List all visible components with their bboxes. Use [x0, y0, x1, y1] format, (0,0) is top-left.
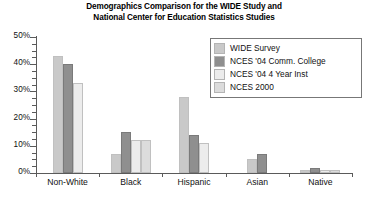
bar-hispanic-series-0: [179, 97, 189, 173]
x-axis-tick: [352, 173, 353, 177]
bar-native-series-3: [330, 170, 340, 173]
bar-native-series-1: [310, 168, 320, 173]
chart-title-line-1: Demographics Comparison for the WIDE Stu…: [0, 2, 368, 13]
bar-black-series-0: [111, 154, 121, 173]
chart-title-line-2: National Center for Education Statistics…: [0, 13, 368, 24]
x-axis-label-non-white: Non-White: [36, 177, 99, 187]
y-axis-tick-label: 40%: [0, 59, 30, 67]
x-axis-line: [36, 173, 353, 174]
legend-label-nces-2000: NCES 2000: [230, 83, 274, 92]
legend-label-nces-04-4-year-inst: NCES '04 4 Year Inst: [230, 70, 308, 79]
y-axis-tick-label: 0%: [0, 168, 30, 176]
legend-item: NCES '04 4 Year Inst: [214, 68, 357, 81]
bar-non-white-series-0: [53, 56, 63, 173]
legend-label-nces-04-comm-college: NCES '04 Comm. College: [230, 57, 326, 66]
legend-swatch-nces-04-4-year-inst: [214, 69, 225, 80]
y-axis-tick-label: 20%: [0, 114, 30, 122]
x-axis-label-native: Native: [289, 177, 352, 187]
bar-black-series-2: [131, 140, 141, 173]
y-axis-tick-label: 10%: [0, 141, 30, 149]
bar-asian-series-1: [257, 154, 267, 173]
legend-swatch-wide-survey: [214, 43, 225, 54]
legend-label-wide-survey: WIDE Survey: [230, 44, 280, 53]
x-axis-label-asian: Asian: [226, 177, 289, 187]
bar-hispanic-series-1: [189, 135, 199, 173]
bar-hispanic-series-2: [199, 143, 209, 173]
bar-non-white-series-2: [73, 83, 83, 173]
bar-black-series-1: [121, 132, 131, 173]
bar-non-white-series-1: [63, 64, 73, 173]
legend-item: WIDE Survey: [214, 42, 357, 55]
legend-item: NCES 2000: [214, 81, 357, 94]
chart-title: Demographics Comparison for the WIDE Stu…: [0, 2, 368, 23]
bar-asian-series-0: [247, 159, 257, 173]
legend-swatch-nces-2000: [214, 82, 225, 93]
bar-black-series-3: [141, 140, 151, 173]
x-axis-label-black: Black: [99, 177, 162, 187]
chart-legend: WIDE Survey NCES '04 Comm. College NCES …: [210, 38, 362, 98]
bar-native-series-0: [300, 170, 310, 173]
bar-native-series-2: [320, 170, 330, 173]
y-axis-tick-label: 50%: [0, 32, 30, 40]
legend-swatch-nces-04-comm-college: [214, 56, 225, 67]
legend-item: NCES '04 Comm. College: [214, 55, 357, 68]
y-axis-tick-label: 30%: [0, 86, 30, 94]
x-axis-label-hispanic: Hispanic: [162, 177, 225, 187]
chart-container: Demographics Comparison for the WIDE Stu…: [0, 0, 368, 205]
